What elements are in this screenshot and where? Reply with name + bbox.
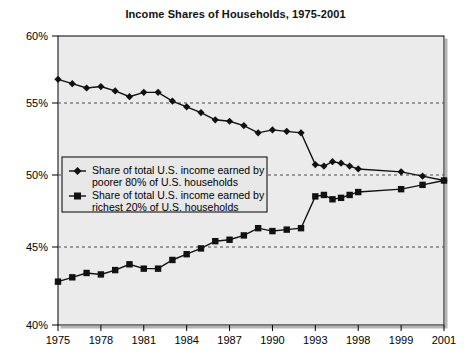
x-label-1990: 1990	[260, 334, 284, 346]
square-marker	[269, 228, 275, 234]
legend-entry-1-line1: Share of total U.S. income earned by	[92, 189, 265, 201]
square-marker	[226, 237, 232, 243]
square-marker	[338, 195, 344, 201]
square-marker	[312, 193, 318, 199]
square-marker	[255, 225, 261, 231]
y-label-50: 50%	[26, 169, 48, 181]
square-marker	[241, 232, 247, 238]
square-marker	[329, 196, 335, 202]
y-label-40: 40%	[26, 319, 48, 331]
legend-entry-0-line2: poorer 80% of U.S. households	[92, 176, 238, 188]
x-label-1993: 1993	[303, 334, 327, 346]
y-label-55: 55%	[26, 97, 48, 109]
x-label-1999: 1999	[389, 334, 413, 346]
x-label-1981: 1981	[132, 334, 156, 346]
x-axis-ticks	[58, 325, 444, 331]
square-marker	[141, 265, 147, 271]
x-label-1998: 1998	[346, 334, 370, 346]
x-label-1975: 1975	[46, 334, 70, 346]
y-label-45: 45%	[26, 241, 48, 253]
square-marker	[441, 177, 447, 183]
x-label-1987: 1987	[217, 334, 241, 346]
chart-legend: Share of total U.S. income earned by poo…	[62, 157, 267, 213]
square-marker	[83, 270, 89, 276]
x-label-1984: 1984	[174, 334, 198, 346]
square-marker	[198, 245, 204, 251]
x-label-2001: 2001	[432, 334, 456, 346]
square-marker	[419, 182, 425, 188]
square-marker	[126, 261, 132, 267]
square-marker	[346, 192, 352, 198]
y-axis-labels: 60% 55% 50% 45% 40%	[26, 30, 48, 331]
legend-entry-0-line1: Share of total U.S. income earned by	[92, 164, 265, 176]
square-marker	[212, 238, 218, 244]
square-marker	[112, 267, 118, 273]
square-marker	[69, 274, 75, 280]
square-marker	[169, 257, 175, 263]
square-marker	[298, 225, 304, 231]
x-label-1978: 1978	[89, 334, 113, 346]
square-marker	[98, 271, 104, 277]
x-axis-labels: 1975197819811984198719901993199819992001	[46, 334, 456, 346]
square-marker	[183, 251, 189, 257]
legend-entry-1-line2: richest 20% of U.S. households	[92, 201, 239, 213]
square-marker	[355, 189, 361, 195]
square-marker	[55, 278, 61, 284]
chart-plot-area: 60% 55% 50% 45% 40% 19751978198119841987…	[0, 0, 471, 359]
y-label-60: 60%	[26, 30, 48, 42]
square-marker	[321, 192, 327, 198]
square-icon	[74, 193, 81, 200]
square-marker	[398, 186, 404, 192]
square-marker	[284, 226, 290, 232]
income-shares-chart: Income Shares of Households, 1975-2001 6…	[0, 0, 471, 359]
square-marker	[155, 265, 161, 271]
